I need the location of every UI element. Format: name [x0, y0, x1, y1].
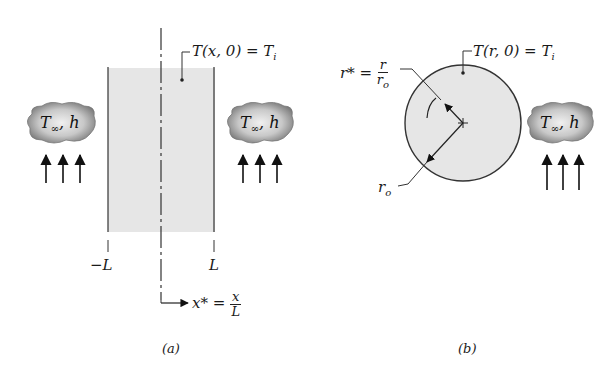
left-boundary-label: −L — [90, 258, 113, 273]
dimensionless-r-label: r* = rro — [340, 58, 389, 89]
fluid-label-right-b: T∞, h — [540, 115, 580, 134]
convection-arrows-left — [46, 155, 80, 183]
caption-a: (a) — [162, 342, 180, 355]
plane-wall — [108, 28, 215, 303]
fluid-label-left: T∞, h — [40, 115, 80, 134]
convection-arrows-right-b — [547, 155, 579, 190]
outer-radius-label: ro — [378, 180, 391, 198]
dimensionless-x-label: x* = xL — [192, 290, 241, 319]
caption-b: (b) — [458, 342, 476, 355]
fluid-label-right-a: T∞, h — [240, 115, 280, 134]
initial-condition-label-a: T(x, 0) = Ti — [192, 44, 277, 62]
cylinder-cross-section — [398, 51, 521, 186]
convection-arrows-right-a — [243, 155, 277, 183]
right-boundary-label: L — [209, 258, 219, 273]
initial-condition-label-b: T(r, 0) = Ti — [473, 44, 555, 62]
